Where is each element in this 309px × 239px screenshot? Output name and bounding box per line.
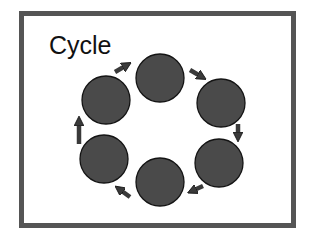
cycle-node-upper-left [82, 76, 130, 124]
cycle-node-lower-right [195, 139, 243, 187]
cycle-node-lower-left [80, 135, 128, 183]
arrow-lower-right-to-bottom-icon [192, 186, 203, 191]
cycle-node-bottom [136, 158, 184, 206]
arrow-upper-left-to-top-icon [115, 65, 127, 72]
arrow-top-to-upper-right-icon [190, 70, 202, 77]
cycle-diagram [0, 0, 309, 239]
cycle-node-upper-right [197, 79, 245, 127]
cycle-node-top [136, 54, 184, 102]
arrow-bottom-to-lower-left-icon [119, 189, 130, 197]
